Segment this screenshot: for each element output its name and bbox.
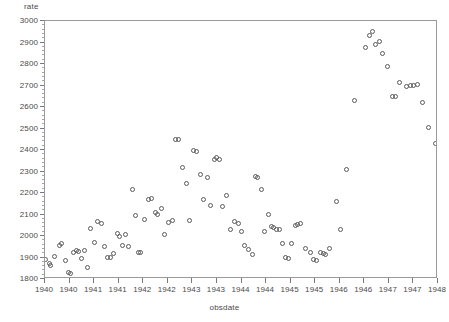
- data-point: [367, 33, 372, 38]
- data-point: [205, 175, 210, 180]
- data-point: [352, 98, 357, 103]
- x-tick-label: 1947: [379, 285, 397, 294]
- data-point: [314, 258, 319, 263]
- data-point: [82, 248, 87, 253]
- x-tick-label: 1945: [305, 285, 323, 294]
- data-point: [176, 137, 181, 142]
- x-tick-label: 1945: [281, 285, 299, 294]
- data-point: [138, 250, 143, 255]
- x-tick-label: 1948: [428, 285, 446, 294]
- data-point: [159, 206, 164, 211]
- data-point: [48, 263, 53, 268]
- x-tick-mark: [167, 278, 168, 283]
- x-tick-label: 1942: [133, 285, 151, 294]
- data-point: [370, 29, 375, 34]
- data-point: [262, 229, 267, 234]
- data-point: [397, 80, 402, 85]
- data-point: [201, 197, 206, 202]
- x-tick-mark: [339, 278, 340, 283]
- data-point: [289, 241, 294, 246]
- x-tick-mark: [191, 278, 192, 283]
- data-point: [277, 227, 282, 232]
- x-tick-mark: [216, 278, 217, 283]
- x-tick-label: 1941: [109, 285, 127, 294]
- x-tick-mark: [118, 278, 119, 283]
- data-point: [68, 271, 73, 276]
- data-point: [338, 227, 343, 232]
- x-tick-label: 1946: [330, 285, 348, 294]
- data-point: [102, 244, 107, 249]
- data-point: [79, 256, 84, 261]
- data-point: [415, 82, 420, 87]
- data-point: [298, 221, 303, 226]
- data-points-layer: [45, 21, 436, 277]
- x-tick-mark: [412, 278, 413, 283]
- x-tick-mark: [241, 278, 242, 283]
- data-point: [155, 212, 160, 217]
- x-tick-label: 1947: [403, 285, 421, 294]
- data-point: [217, 157, 222, 162]
- data-point: [327, 246, 332, 251]
- data-point: [393, 94, 398, 99]
- data-point: [142, 217, 147, 222]
- x-tick-label: 1940: [35, 285, 53, 294]
- data-point: [250, 252, 255, 257]
- plot-area: [44, 20, 437, 278]
- x-tick-mark: [290, 278, 291, 283]
- data-point: [52, 254, 57, 259]
- data-point: [259, 187, 264, 192]
- data-point: [184, 181, 189, 186]
- x-tick-label: 1942: [158, 285, 176, 294]
- data-point: [111, 251, 116, 256]
- data-point: [239, 229, 244, 234]
- x-tick-label: 1944: [231, 285, 249, 294]
- x-tick-label: 1941: [84, 285, 102, 294]
- data-point: [420, 100, 425, 105]
- data-point: [59, 241, 64, 246]
- data-point: [76, 249, 81, 254]
- data-point: [162, 232, 167, 237]
- x-tick-mark: [314, 278, 315, 283]
- data-point: [120, 243, 125, 248]
- data-point: [303, 246, 308, 251]
- x-tick-label: 1940: [59, 285, 77, 294]
- data-point: [149, 196, 154, 201]
- x-tick-label: 1946: [354, 285, 372, 294]
- data-point: [377, 39, 382, 44]
- data-point: [344, 167, 349, 172]
- data-point: [323, 252, 328, 257]
- data-point: [236, 221, 241, 226]
- data-point: [126, 244, 131, 249]
- data-point: [88, 226, 93, 231]
- data-point: [133, 213, 138, 218]
- data-point: [123, 232, 128, 237]
- data-point: [180, 165, 185, 170]
- data-point: [85, 265, 90, 270]
- x-tick-label: 1944: [256, 285, 274, 294]
- data-point: [334, 199, 339, 204]
- x-tick-mark: [388, 278, 389, 283]
- data-point: [308, 250, 313, 255]
- data-point: [117, 234, 122, 239]
- data-point: [208, 203, 213, 208]
- data-point: [194, 149, 199, 154]
- data-point: [363, 45, 368, 50]
- x-axis-label: obsdate: [0, 303, 449, 312]
- x-tick-mark: [44, 278, 45, 283]
- x-tick-mark: [93, 278, 94, 283]
- data-point: [228, 227, 233, 232]
- x-tick-mark: [363, 278, 364, 283]
- data-point: [385, 64, 390, 69]
- data-point: [92, 240, 97, 245]
- x-tick-label: 1943: [182, 285, 200, 294]
- x-tick-label: 1943: [207, 285, 225, 294]
- data-point: [170, 218, 175, 223]
- data-point: [224, 193, 229, 198]
- data-point: [63, 258, 68, 263]
- data-point: [99, 221, 104, 226]
- data-point: [280, 241, 285, 246]
- x-tick-mark: [437, 278, 438, 283]
- data-point: [286, 256, 291, 261]
- data-point: [426, 125, 431, 130]
- data-point: [220, 204, 225, 209]
